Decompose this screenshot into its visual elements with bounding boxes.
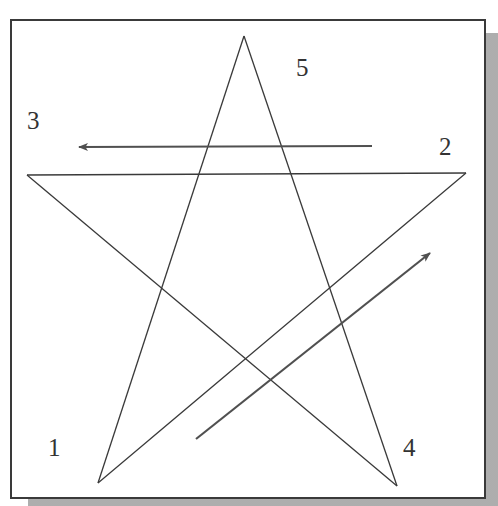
label-3: 3	[27, 107, 40, 134]
stroke-4-to-3	[27, 175, 397, 486]
label-4: 4	[403, 434, 416, 461]
stroke-5-to-4	[244, 36, 397, 486]
stroke-1-to-5	[98, 36, 244, 483]
arrow-toward-3	[79, 146, 372, 147]
label-5: 5	[296, 54, 309, 81]
pentagram-diagram: 5 3 2 1 4	[0, 0, 498, 506]
label-2: 2	[439, 133, 452, 160]
direction-arrows	[79, 146, 430, 439]
star-strokes	[27, 36, 466, 486]
label-1: 1	[48, 434, 61, 461]
stroke-3-to-2	[27, 173, 466, 175]
vertex-labels: 5 3 2 1 4	[27, 54, 452, 461]
